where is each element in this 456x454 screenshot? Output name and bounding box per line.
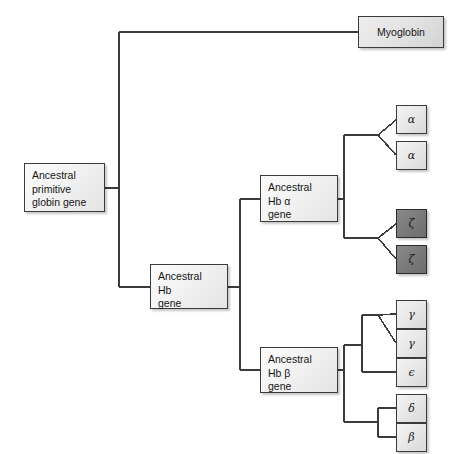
node-beta[interactable]: β: [396, 423, 427, 452]
node-label: γ: [397, 330, 426, 357]
node-label: ζ: [397, 210, 426, 237]
edge-fork-to-alpha-1: [378, 120, 396, 135]
node-ancestral-primitive-globin-gene[interactable]: Ancestral primitive globin gene: [24, 163, 105, 212]
node-label: Ancestral primitive globin gene: [32, 169, 104, 210]
node-label: ϵ: [397, 359, 426, 386]
tree-connector-lines: [0, 0, 456, 454]
node-label: β: [397, 424, 426, 451]
diagram-canvas: Ancestral primitive globin gene Myoglobi…: [0, 0, 456, 454]
edge-fork-to-gamma-1: [378, 314, 396, 315]
node-gamma-1[interactable]: γ: [396, 300, 427, 329]
node-delta[interactable]: δ: [396, 394, 427, 423]
edge-fork-to-gamma-2: [378, 315, 396, 343]
node-label: Ancestral Hb α gene: [268, 181, 337, 222]
node-label: ζ: [397, 246, 426, 273]
node-zeta-1[interactable]: ζ: [396, 209, 427, 238]
edge-fork-to-zeta-1: [378, 224, 396, 238]
node-label: δ: [397, 395, 426, 422]
node-zeta-2[interactable]: ζ: [396, 245, 427, 274]
node-label: Ancestral Hb gene: [158, 270, 227, 311]
node-label: Ancestral Hb β gene: [268, 353, 337, 394]
node-alpha-2[interactable]: α: [396, 141, 427, 170]
node-label: γ: [397, 301, 426, 328]
node-myoglobin[interactable]: Myoglobin: [358, 16, 444, 48]
node-alpha-1[interactable]: α: [396, 105, 427, 134]
node-ancestral-hb-beta-gene[interactable]: Ancestral Hb β gene: [260, 347, 338, 393]
edge-fork-to-zeta-2: [378, 238, 396, 259]
node-gamma-2[interactable]: γ: [396, 329, 427, 358]
node-epsilon[interactable]: ϵ: [396, 358, 427, 387]
node-ancestral-hb-gene[interactable]: Ancestral Hb gene: [150, 264, 228, 309]
node-label: Myoglobin: [359, 17, 443, 47]
edge-fork-to-alpha-2: [378, 135, 396, 155]
node-ancestral-hb-alpha-gene[interactable]: Ancestral Hb α gene: [260, 175, 338, 222]
node-label: α: [397, 142, 426, 169]
node-label: α: [397, 106, 426, 133]
